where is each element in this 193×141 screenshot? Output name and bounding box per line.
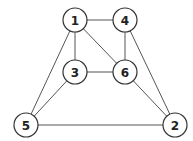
node-label: 1	[71, 14, 79, 28]
node-label: 2	[171, 119, 179, 133]
node-label: 6	[121, 66, 129, 80]
node-2: 2	[163, 113, 187, 137]
node-label: 3	[71, 66, 79, 80]
node-5: 5	[14, 113, 38, 137]
edges	[26, 20, 175, 125]
node-3: 3	[63, 60, 87, 84]
node-1: 1	[63, 8, 87, 32]
node-label: 5	[22, 119, 30, 133]
node-4: 4	[113, 8, 137, 32]
node-label: 4	[121, 14, 129, 28]
node-6: 6	[113, 60, 137, 84]
graph-diagram: 143652	[0, 0, 193, 141]
